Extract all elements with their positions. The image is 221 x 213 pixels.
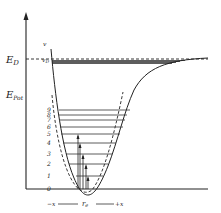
v-label: v <box>43 40 47 47</box>
level-labels: 0 1 2 3 4 5 6 7 8 9 <box>46 106 51 192</box>
svg-text:1: 1 <box>47 172 51 179</box>
re-label: re <box>82 200 88 208</box>
minus-x-label: −x <box>47 200 56 207</box>
svg-text:9: 9 <box>47 106 51 113</box>
plus-x-label: +x <box>115 200 124 207</box>
morse-curve <box>51 49 208 195</box>
svg-text:6: 6 <box>47 123 51 130</box>
potential-energy-diagram: ED EPot v vD 0 1 2 3 4 5 6 7 8 9 −x re +… <box>0 0 221 213</box>
ed-label: ED <box>5 54 19 67</box>
harmonic-curve <box>52 92 123 192</box>
svg-text:5: 5 <box>47 130 51 137</box>
svg-text:0: 0 <box>47 185 51 192</box>
transition-arrows <box>77 134 90 189</box>
axis-arrowhead-icon <box>24 12 29 20</box>
svg-text:4: 4 <box>46 139 51 146</box>
epot-label: EPot <box>5 89 24 101</box>
vd-label: vD <box>42 56 49 64</box>
converging-levels <box>52 61 185 64</box>
svg-text:3: 3 <box>47 150 51 157</box>
svg-text:2: 2 <box>46 160 51 167</box>
